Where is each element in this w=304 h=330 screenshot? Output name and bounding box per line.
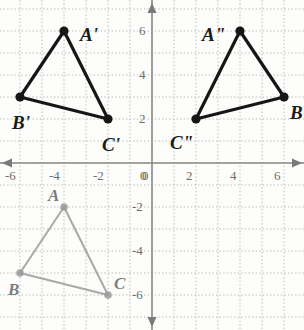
vertex-label-a-prime: A' — [80, 25, 98, 44]
x-tick-label: 6 — [274, 169, 281, 182]
axis-lines — [0, 0, 304, 330]
vertex-label-b-prime: B" — [290, 103, 304, 122]
vertex-label-a-prime: A" — [202, 25, 225, 44]
y-tick-label: -4 — [132, 244, 143, 257]
coordinate-plane-figure: -6-4-20246 642-2-4-60 A'B'C'A"B"C"ABC — [0, 0, 304, 330]
vertex-label-b: B — [8, 281, 19, 298]
y-tick-label: 4 — [139, 68, 146, 81]
plot-svg — [0, 0, 304, 330]
x-tick-label: -6 — [5, 169, 16, 182]
y-tick-label: -6 — [132, 288, 143, 301]
origin-label: 0 — [140, 169, 147, 182]
vertex-label-b-prime: B' — [12, 113, 30, 132]
vertex-label-c-prime: C" — [170, 133, 193, 152]
vertex-label-c-prime: C' — [102, 135, 120, 154]
y-tick-label: 6 — [139, 24, 146, 37]
y-tick-label: 2 — [139, 112, 146, 125]
x-tick-label: -4 — [49, 169, 60, 182]
x-tick-label: 2 — [186, 169, 193, 182]
vertex-label-c: C — [114, 275, 125, 292]
y-tick-label: -2 — [132, 200, 143, 213]
vertex-label-a: A — [48, 187, 59, 204]
x-tick-label: -2 — [93, 169, 104, 182]
x-tick-label: 4 — [230, 169, 237, 182]
